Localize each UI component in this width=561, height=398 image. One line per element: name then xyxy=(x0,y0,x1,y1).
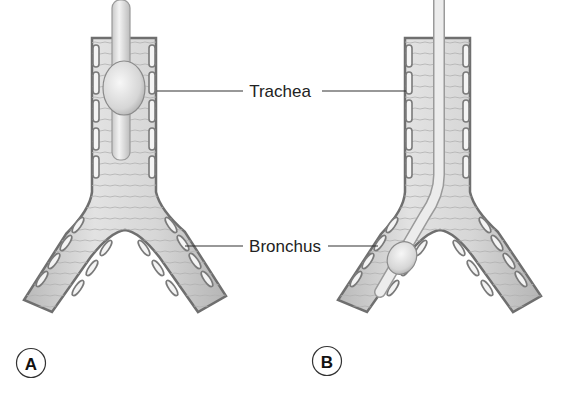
panel-b: B xyxy=(313,0,542,376)
trachea-callout: Trachea xyxy=(157,82,406,101)
trachea-label: Trachea xyxy=(249,82,311,101)
panel-letter-a: A xyxy=(25,355,37,374)
bronchus-label: Bronchus xyxy=(249,237,321,256)
panel-label-a: A xyxy=(17,349,46,378)
panel-label-b: B xyxy=(313,347,342,376)
panel-a: A xyxy=(17,0,227,378)
bronchus-callout: Bronchus xyxy=(185,237,378,256)
tube-cuff-a xyxy=(103,61,145,115)
panel-letter-b: B xyxy=(321,353,333,372)
airway-diagram: A xyxy=(0,0,561,398)
